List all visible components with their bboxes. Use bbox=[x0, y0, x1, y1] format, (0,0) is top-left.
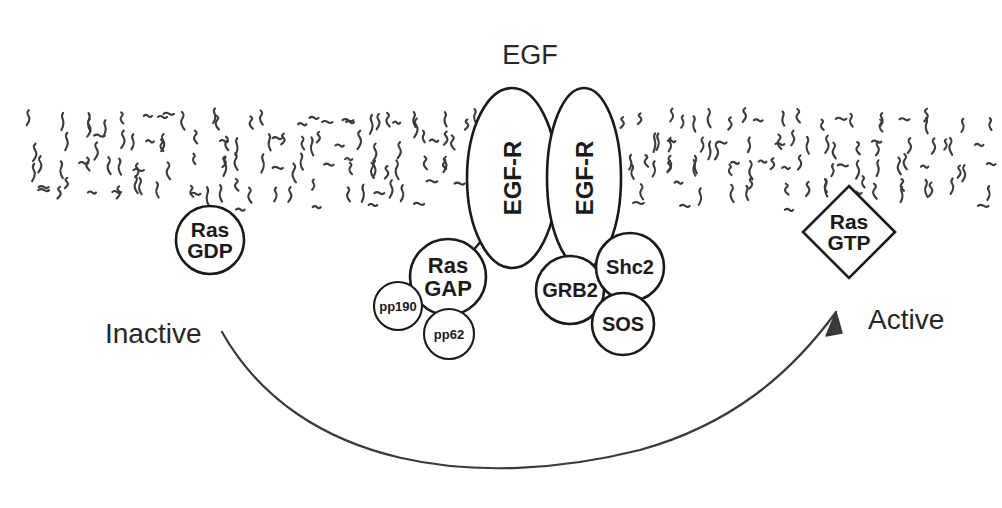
lipid-tail bbox=[144, 115, 152, 117]
receptor-label: EGF-R bbox=[499, 141, 526, 216]
lipid-tail bbox=[657, 134, 659, 150]
lipid-tail bbox=[987, 163, 996, 165]
lipid-tail bbox=[273, 137, 282, 139]
lipid-tail bbox=[401, 185, 404, 201]
lipid-tail bbox=[629, 155, 631, 170]
lipid-tail bbox=[193, 154, 195, 164]
lipid-tail bbox=[65, 178, 68, 188]
lipid-tail bbox=[288, 187, 291, 202]
lipid-tail bbox=[455, 182, 465, 184]
lipid-tail bbox=[300, 154, 302, 170]
lipid-tail bbox=[873, 184, 877, 199]
node-label: Shc2 bbox=[606, 256, 654, 278]
lipid-tail bbox=[248, 188, 251, 203]
activation-arrow bbox=[222, 312, 842, 468]
lipid-tail bbox=[451, 135, 455, 149]
lipid-tail bbox=[225, 137, 228, 151]
lipid-tail bbox=[236, 208, 245, 210]
lipid-tail bbox=[414, 203, 424, 205]
lipid-tail bbox=[778, 135, 782, 149]
lipid-tail bbox=[825, 136, 828, 153]
lipid-tail bbox=[373, 144, 376, 161]
lipid-tail bbox=[311, 137, 313, 155]
node-label: GDP bbox=[187, 239, 233, 262]
lipid-tail bbox=[322, 121, 332, 123]
lipid-tail bbox=[444, 132, 447, 145]
lipid-tail bbox=[798, 155, 801, 169]
lipid-tail bbox=[310, 117, 319, 119]
lipid-tail bbox=[135, 176, 138, 193]
node-ras-gdp[interactable]: RasGDP bbox=[176, 206, 244, 274]
lipid-tail bbox=[312, 180, 314, 190]
lipid-tail bbox=[728, 117, 731, 129]
lipid-tail bbox=[729, 165, 732, 175]
lipid-tail bbox=[675, 182, 683, 184]
lipid-tail bbox=[694, 156, 696, 173]
lipid-tail bbox=[131, 134, 133, 149]
node-label: pp62 bbox=[434, 327, 464, 342]
lipid-tail bbox=[220, 185, 222, 202]
lipid-tail bbox=[465, 120, 468, 130]
lipid-tail bbox=[371, 163, 374, 178]
lipid-tail bbox=[349, 163, 352, 174]
lipid-tail bbox=[681, 116, 683, 128]
lipid-tail bbox=[88, 191, 96, 193]
node-pp190[interactable]: pp190 bbox=[374, 282, 422, 330]
lipid-tail bbox=[693, 116, 695, 131]
lipid-tail bbox=[250, 116, 253, 128]
lipid-tail bbox=[108, 157, 111, 174]
lipid-tail bbox=[206, 187, 208, 206]
lipid-tail bbox=[167, 162, 171, 179]
lipid-tail bbox=[377, 114, 380, 129]
lipid-tail bbox=[134, 169, 144, 171]
egf-receptor-left[interactable]: EGF-R bbox=[467, 88, 557, 268]
lipid-tail bbox=[343, 119, 354, 121]
node-label: Ras bbox=[191, 218, 230, 241]
lipid-tail bbox=[385, 166, 389, 179]
lipid-tail bbox=[850, 114, 853, 127]
lipid-tail bbox=[269, 134, 271, 150]
lipid-tail bbox=[374, 192, 384, 194]
lipid-tail bbox=[638, 113, 641, 124]
lipid-tail bbox=[293, 163, 296, 182]
lipid-tail bbox=[901, 179, 904, 191]
lipid-tail bbox=[925, 180, 928, 197]
lipid-tail bbox=[715, 142, 718, 159]
lipid-tail bbox=[139, 178, 142, 194]
lipid-tail bbox=[806, 182, 809, 196]
lipid-tail bbox=[929, 183, 932, 197]
lipid-tail bbox=[313, 206, 321, 208]
lipid-tail bbox=[951, 178, 954, 194]
lipid-tail bbox=[831, 164, 833, 176]
lipid-tail bbox=[731, 185, 734, 202]
node-shc2[interactable]: Shc2 bbox=[596, 233, 664, 301]
lipid-tail bbox=[146, 140, 154, 142]
node-ras-gtp[interactable]: RasGTP bbox=[803, 186, 895, 278]
node-pp62[interactable]: pp62 bbox=[424, 309, 474, 359]
lipid-tail bbox=[57, 187, 60, 199]
lipid-tail bbox=[261, 154, 264, 172]
lipid-tail bbox=[190, 186, 193, 197]
lipid-tail bbox=[904, 154, 907, 169]
lipid-tail bbox=[65, 133, 68, 150]
lipid-tail bbox=[701, 138, 704, 152]
lipid-tail bbox=[782, 112, 784, 126]
lipid-tail bbox=[746, 186, 748, 200]
lipid-tail bbox=[386, 113, 389, 127]
lipid-tail bbox=[158, 116, 167, 118]
node-sos[interactable]: SOS bbox=[592, 293, 654, 355]
lipid-tail bbox=[708, 109, 711, 127]
lipid-tail bbox=[987, 186, 989, 200]
lipid-tail bbox=[345, 158, 352, 160]
lipid-tail bbox=[797, 109, 800, 122]
pathway-diagram: EGF-REGF-RRasGDPRasGAPpp190pp62GRB2Shc2S… bbox=[0, 0, 1002, 508]
lipid-tail bbox=[444, 112, 446, 126]
lipid-tail bbox=[670, 109, 673, 122]
lipid-tail bbox=[978, 205, 989, 207]
lipid-tail bbox=[121, 131, 124, 148]
node-label: GRB2 bbox=[542, 279, 598, 301]
lipid-tail bbox=[782, 167, 790, 169]
lipid-tail bbox=[654, 133, 656, 152]
node-label: Ras bbox=[830, 210, 869, 233]
lipid-tail bbox=[358, 131, 361, 149]
